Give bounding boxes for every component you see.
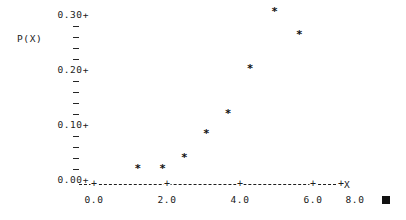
y-minor-tick bbox=[73, 158, 79, 159]
corner-square-marker bbox=[382, 196, 390, 204]
y-minor-tick bbox=[73, 26, 79, 27]
data-point: * bbox=[203, 128, 210, 139]
y-minor-tick bbox=[73, 59, 79, 60]
data-point: * bbox=[271, 6, 278, 17]
y-minor-tick bbox=[73, 136, 79, 137]
x-tick-label-4: 8.0 bbox=[346, 195, 365, 205]
data-point: * bbox=[296, 29, 303, 40]
y-minor-tick bbox=[73, 147, 79, 148]
data-point: * bbox=[134, 162, 141, 173]
x-tick-label-0: 0.0 bbox=[85, 195, 104, 205]
x-major-tick: + bbox=[236, 179, 243, 189]
data-point: * bbox=[225, 107, 232, 118]
x-tick-label-2: 4.0 bbox=[231, 195, 250, 205]
y-minor-tick bbox=[73, 103, 79, 104]
y-axis-title: P(X) bbox=[17, 33, 42, 44]
x-major-tick: + bbox=[309, 179, 316, 189]
data-point: * bbox=[159, 162, 166, 173]
data-point: * bbox=[181, 151, 188, 162]
x-major-tick: + bbox=[90, 179, 97, 189]
y-minor-tick bbox=[73, 169, 79, 170]
scatter-plot: P(X) 0.30+ 0.20+ 0.10+ 0.00+ + + + + + 0… bbox=[0, 0, 406, 220]
y-minor-tick bbox=[73, 81, 79, 82]
x-major-tick: + bbox=[163, 179, 170, 189]
y-tick-label-1: 0.20+ bbox=[41, 65, 89, 75]
x-tick-label-1: 2.0 bbox=[158, 195, 177, 205]
x-axis-line bbox=[79, 184, 341, 185]
y-tick-label-0: 0.30+ bbox=[41, 10, 89, 20]
y-minor-tick bbox=[73, 37, 79, 38]
x-tick-label-3: 6.0 bbox=[304, 195, 323, 205]
y-tick-label-2: 0.10+ bbox=[41, 120, 89, 130]
y-minor-tick bbox=[73, 114, 79, 115]
y-minor-tick bbox=[73, 92, 79, 93]
x-axis-title: X bbox=[344, 179, 350, 190]
y-minor-tick bbox=[73, 48, 79, 49]
data-point: * bbox=[247, 63, 254, 74]
